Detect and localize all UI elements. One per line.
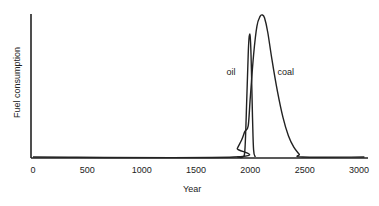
x-tick-label: 1500 <box>186 165 206 175</box>
y-axis-label: Fuel consumption <box>12 47 22 118</box>
fuel-consumption-chart: 050010001500200025003000 oil coal Year F… <box>0 0 379 206</box>
x-tick-label: 500 <box>80 165 95 175</box>
x-tick-label: 2500 <box>295 165 315 175</box>
coal-annotation: coal <box>278 67 295 77</box>
x-tick-label: 0 <box>30 165 35 175</box>
x-axis-label: Year <box>183 184 201 194</box>
coal-series-line <box>33 15 364 158</box>
x-tick-label: 2000 <box>240 165 260 175</box>
x-tick-label: 3000 <box>349 165 369 175</box>
oil-annotation: oil <box>226 67 235 77</box>
oil-series-line <box>237 34 255 158</box>
x-tick-label: 1000 <box>132 165 152 175</box>
